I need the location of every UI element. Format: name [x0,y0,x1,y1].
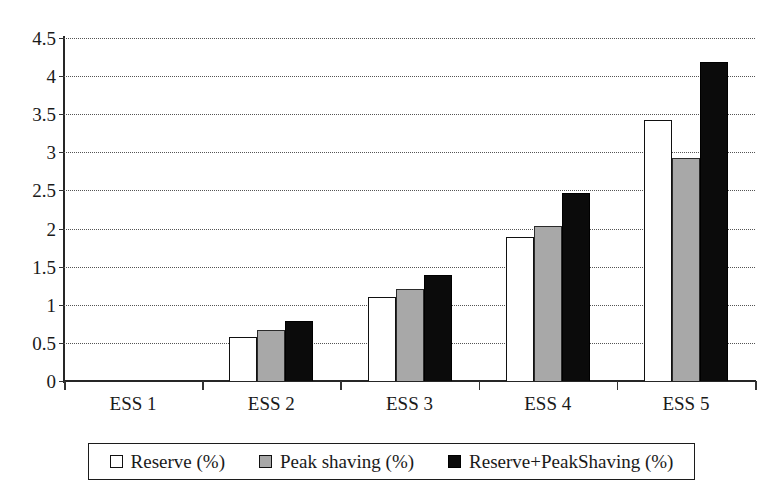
legend-label: Reserve (%) [131,451,225,473]
y-axis-tick-label: 1 [47,295,57,314]
legend-label: Reserve+PeakShaving (%) [469,451,673,473]
bar-group [64,38,202,381]
bar [229,337,257,381]
plot-area [64,38,755,381]
x-axis-category-label: ESS 2 [202,391,340,417]
y-axis-tick-label: 3.5 [32,105,56,124]
legend-label: Peak shaving (%) [280,451,414,473]
y-axis-tick-label: 3 [47,143,57,162]
bar [534,226,562,381]
legend-item[interactable]: Peak shaving (%) [259,451,414,473]
x-axis-labels: ESS 1ESS 2ESS 3ESS 4ESS 5 [64,391,755,417]
x-axis-category-label: ESS 4 [479,391,617,417]
bar-group [202,38,340,381]
y-axis-tick-label: 0.5 [32,333,56,352]
y-axis-tick-label: 4 [47,67,57,86]
bar [257,330,285,381]
chart-legend: Reserve (%)Peak shaving (%)Reserve+PeakS… [88,443,695,480]
bar-group [617,38,755,381]
bar-group [479,38,617,381]
bar [562,193,590,381]
y-axis-tick-label: 0 [47,372,57,391]
category-tick [479,381,481,390]
bar [424,275,452,381]
bar [285,321,313,381]
bar-chart: 00.511.522.533.544.5 ESS 1ESS 2ESS 3ESS … [0,0,782,495]
category-tick [755,381,757,390]
category-tick [617,381,619,390]
bar [672,158,700,381]
legend-swatch-icon [259,455,272,468]
category-tick-marks [63,381,756,390]
bar [368,297,396,381]
x-axis-category-label: ESS 5 [617,391,755,417]
category-tick [64,381,66,390]
bar-group [340,38,478,381]
y-axis-tick-label: 4.5 [32,29,56,48]
bar-groups [64,38,755,381]
legend-item[interactable]: Reserve+PeakShaving (%) [448,451,673,473]
legend-item[interactable]: Reserve (%) [110,451,225,473]
bar [396,289,424,381]
bar [506,237,534,381]
category-tick [340,381,342,390]
bar [700,62,728,381]
y-axis-labels: 00.511.522.533.544.5 [0,38,56,381]
x-axis-category-label: ESS 3 [340,391,478,417]
y-axis-tick-label: 1.5 [32,257,56,276]
legend-swatch-icon [110,455,123,468]
x-axis-category-label: ESS 1 [64,391,202,417]
category-tick [202,381,204,390]
bar [644,120,672,381]
y-axis-tick-label: 2.5 [32,181,56,200]
y-axis-tick-label: 2 [47,219,57,238]
legend-swatch-icon [448,455,461,468]
